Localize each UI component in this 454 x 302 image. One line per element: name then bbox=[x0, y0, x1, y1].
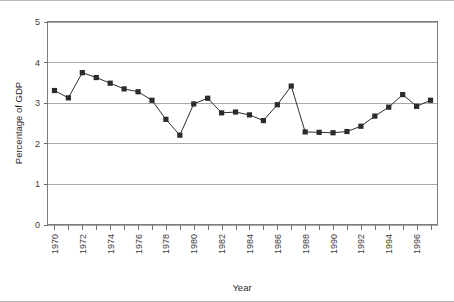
x-axis-tick-label: 1990 bbox=[329, 234, 339, 254]
x-axis-tick-label: 1980 bbox=[189, 234, 199, 254]
x-axis-tick-label: 1984 bbox=[245, 234, 255, 254]
data-point-marker bbox=[122, 86, 127, 91]
x-axis-tick-label: 1972 bbox=[78, 234, 88, 254]
plot-area-border bbox=[48, 22, 438, 225]
x-axis-tick-label: 1982 bbox=[217, 234, 227, 254]
data-point-marker bbox=[247, 112, 252, 117]
data-point-marker bbox=[289, 83, 294, 88]
data-point-marker bbox=[80, 70, 85, 75]
data-point-marker bbox=[233, 109, 238, 114]
data-point-marker bbox=[330, 130, 335, 135]
data-point-marker bbox=[66, 95, 71, 100]
data-point-marker bbox=[191, 101, 196, 106]
data-point-marker bbox=[372, 114, 377, 119]
data-point-marker bbox=[303, 129, 308, 134]
y-axis-tick-label: 2 bbox=[35, 139, 40, 149]
data-point-marker bbox=[414, 104, 419, 109]
y-axis-tick-label: 0 bbox=[35, 220, 40, 230]
data-point-marker bbox=[149, 98, 154, 103]
x-axis-title: Year bbox=[232, 282, 251, 293]
x-axis-tick-label: 1992 bbox=[356, 234, 366, 254]
data-point-marker bbox=[275, 102, 280, 107]
x-axis-tick-label: 1970 bbox=[50, 234, 60, 254]
x-axis-tick-label: 1994 bbox=[384, 234, 394, 254]
data-point-marker bbox=[219, 110, 224, 115]
y-axis-tick-label: 3 bbox=[35, 98, 40, 108]
y-axis-title: Percentage of GDP bbox=[13, 82, 24, 164]
chart-figure: 012345 197019721974197619781980198219841… bbox=[0, 0, 454, 302]
y-axis-tick-label: 4 bbox=[35, 58, 40, 68]
data-point-marker bbox=[386, 105, 391, 110]
x-axis-tick-labels: 1970197219741976197819801982198419861988… bbox=[50, 234, 422, 254]
x-axis-tick-label: 1988 bbox=[301, 234, 311, 254]
data-point-marker bbox=[52, 88, 57, 93]
x-axis-tick-label: 1986 bbox=[273, 234, 283, 254]
data-point-marker bbox=[261, 118, 266, 123]
data-point-marker bbox=[94, 75, 99, 80]
data-point-marker bbox=[205, 96, 210, 101]
data-point-marker bbox=[358, 124, 363, 129]
x-axis-tick-label: 1996 bbox=[412, 234, 422, 254]
data-point-marker bbox=[108, 81, 113, 86]
y-axis-tick-label: 1 bbox=[35, 179, 40, 189]
x-axis-tick-label: 1976 bbox=[134, 234, 144, 254]
y-axis-tick-label: 5 bbox=[35, 17, 40, 27]
x-axis-tick-label: 1974 bbox=[106, 234, 116, 254]
data-point-marker bbox=[344, 129, 349, 134]
data-point-marker bbox=[177, 133, 182, 138]
data-point-marker bbox=[135, 89, 140, 94]
gridlines bbox=[48, 23, 438, 226]
data-point-marker bbox=[163, 117, 168, 122]
y-axis-tick-labels: 012345 bbox=[35, 17, 48, 230]
data-point-marker bbox=[400, 92, 405, 97]
x-axis-tick-label: 1978 bbox=[161, 234, 171, 254]
data-point-marker bbox=[317, 130, 322, 135]
line-chart: 012345 197019721974197619781980198219841… bbox=[0, 1, 454, 302]
data-point-marker bbox=[428, 98, 433, 103]
